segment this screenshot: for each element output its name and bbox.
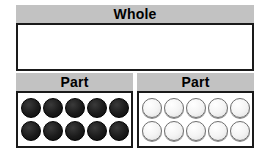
whole-header: Whole [16, 5, 254, 23]
counter-light[interactable] [208, 98, 228, 118]
counter-dark[interactable] [87, 121, 107, 141]
part-right-counter-box[interactable] [137, 91, 254, 148]
part-left-header: Part [16, 73, 133, 91]
counter-dark[interactable] [65, 121, 85, 141]
counter-light[interactable] [230, 98, 250, 118]
counter-dark[interactable] [109, 121, 129, 141]
part-part-whole-diagram: Whole Part Part [16, 5, 254, 148]
counter-light[interactable] [186, 98, 206, 118]
counter-light[interactable] [142, 98, 162, 118]
counter-light[interactable] [164, 121, 184, 141]
counter-light[interactable] [208, 121, 228, 141]
parts-row: Part Part [16, 73, 254, 148]
counter-light[interactable] [186, 121, 206, 141]
whole-header-label: Whole [114, 7, 157, 21]
counter-dark[interactable] [21, 121, 41, 141]
part-left-counter-box[interactable] [16, 91, 133, 148]
counter-row [142, 98, 250, 118]
counter-dark[interactable] [43, 121, 63, 141]
counter-light[interactable] [164, 98, 184, 118]
part-right-header-label: Part [181, 75, 209, 89]
counter-row [142, 121, 250, 141]
counter-row [21, 121, 129, 141]
counter-light[interactable] [230, 121, 250, 141]
part-right-header: Part [137, 73, 254, 91]
counter-dark[interactable] [65, 98, 85, 118]
counter-dark[interactable] [43, 98, 63, 118]
counter-dark[interactable] [109, 98, 129, 118]
part-block-left: Part [16, 73, 133, 148]
part-left-header-label: Part [60, 75, 88, 89]
counter-row [21, 98, 129, 118]
counter-dark[interactable] [21, 98, 41, 118]
counter-dark[interactable] [87, 98, 107, 118]
whole-value-box[interactable] [16, 23, 254, 71]
counter-light[interactable] [142, 121, 162, 141]
part-block-right: Part [137, 73, 254, 148]
whole-block: Whole [16, 5, 254, 71]
diagram-canvas: Whole Part Part [0, 0, 271, 157]
